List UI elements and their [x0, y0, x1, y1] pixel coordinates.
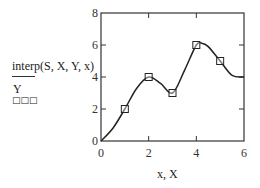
x-tick-label: 4	[193, 146, 199, 160]
data-point-marker	[217, 58, 224, 65]
data-point-marker	[169, 90, 176, 97]
data-point-marker	[121, 106, 128, 113]
y-tick-label: 4	[92, 70, 98, 84]
data-point-marker	[193, 42, 200, 49]
y-tick-label: 8	[92, 6, 98, 20]
plot-area: 024680246	[0, 0, 260, 188]
x-tick-label: 2	[146, 146, 152, 160]
plot-frame	[101, 13, 244, 141]
y-tick-label: 2	[92, 102, 98, 116]
data-point-marker	[145, 74, 152, 81]
x-tick-label: 6	[241, 146, 247, 160]
y-tick-label: 6	[92, 38, 98, 52]
x-tick-label: 0	[98, 146, 104, 160]
